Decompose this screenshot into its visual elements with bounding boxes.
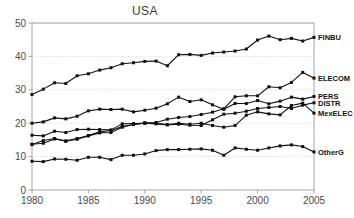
series-marker-mexelec bbox=[222, 107, 225, 110]
series-marker-distr bbox=[177, 123, 180, 126]
data-series bbox=[31, 35, 316, 164]
series-marker-otherg bbox=[42, 160, 45, 163]
series-marker-elecom bbox=[211, 124, 214, 127]
series-otherg bbox=[31, 143, 316, 163]
series-marker-finbu bbox=[313, 36, 316, 39]
series-marker-finbu bbox=[53, 81, 56, 84]
series-marker-mexelec bbox=[279, 86, 282, 89]
series-marker-distr bbox=[188, 124, 191, 127]
series-marker-mexelec bbox=[211, 111, 214, 114]
series-distr bbox=[31, 101, 316, 137]
series-marker-distr bbox=[245, 110, 248, 113]
series-marker-mexelec bbox=[64, 140, 67, 143]
series-marker-otherg bbox=[279, 144, 282, 147]
y-tick-label-0: 0 bbox=[20, 185, 26, 196]
series-marker-mexelec bbox=[155, 121, 158, 124]
series-marker-distr bbox=[301, 104, 304, 107]
series-marker-pers bbox=[267, 102, 270, 105]
series-marker-mexelec bbox=[31, 143, 34, 146]
series-marker-pers bbox=[109, 108, 112, 111]
series-marker-pers bbox=[87, 109, 90, 112]
series-marker-pers bbox=[76, 115, 79, 118]
series-marker-elecom bbox=[290, 104, 293, 107]
series-marker-otherg bbox=[155, 149, 158, 152]
series-marker-distr bbox=[31, 134, 34, 137]
series-marker-mexelec bbox=[143, 122, 146, 125]
series-marker-elecom bbox=[222, 126, 225, 129]
series-marker-distr bbox=[290, 107, 293, 110]
y-axis-ticks: 01020304050 bbox=[15, 18, 32, 196]
series-marker-finbu bbox=[98, 69, 101, 72]
series-marker-finbu bbox=[177, 53, 180, 56]
series-marker-finbu bbox=[188, 53, 191, 56]
series-marker-otherg bbox=[222, 154, 225, 157]
series-marker-otherg bbox=[132, 154, 135, 157]
series-line-finbu bbox=[32, 36, 314, 94]
series-marker-mexelec bbox=[290, 81, 293, 84]
series-marker-mexelec bbox=[98, 131, 101, 134]
series-marker-finbu bbox=[256, 39, 259, 42]
legend-label-mexelec: MexELEC bbox=[318, 109, 353, 118]
x-axis-ticks: 198019851990199520002005 bbox=[21, 190, 326, 206]
series-marker-distr bbox=[64, 131, 67, 134]
series-marker-pers bbox=[155, 107, 158, 110]
series-marker-mexelec bbox=[267, 85, 270, 88]
series-marker-distr bbox=[234, 112, 237, 115]
series-marker-finbu bbox=[234, 50, 237, 53]
series-marker-finbu bbox=[245, 48, 248, 51]
series-marker-mexelec bbox=[234, 95, 237, 98]
x-tick-label-1995: 1995 bbox=[190, 195, 213, 206]
series-marker-mexelec bbox=[53, 137, 56, 140]
legend-label-distr: DISTR bbox=[318, 99, 341, 108]
series-marker-elecom bbox=[234, 124, 237, 127]
series-marker-distr bbox=[76, 128, 79, 131]
series-marker-elecom bbox=[279, 113, 282, 116]
series-marker-elecom bbox=[256, 110, 259, 113]
series-marker-mexelec bbox=[301, 71, 304, 74]
x-tick-label-2000: 2000 bbox=[246, 195, 269, 206]
series-marker-otherg bbox=[64, 158, 67, 161]
legend-label-elecom: ELECOM bbox=[318, 74, 350, 83]
series-marker-pers bbox=[64, 117, 67, 120]
series-marker-distr bbox=[279, 105, 282, 108]
series-marker-otherg bbox=[301, 145, 304, 148]
series-marker-distr bbox=[313, 101, 316, 104]
series-marker-mexelec bbox=[87, 134, 90, 137]
series-marker-pers bbox=[211, 103, 214, 106]
series-marker-elecom bbox=[313, 112, 316, 115]
x-tick-label-1980: 1980 bbox=[21, 195, 44, 206]
axis-frame bbox=[32, 23, 314, 190]
series-marker-elecom bbox=[267, 112, 270, 115]
series-marker-finbu bbox=[42, 88, 45, 91]
series-marker-otherg bbox=[109, 158, 112, 161]
series-marker-finbu bbox=[166, 64, 169, 67]
series-mexelec bbox=[31, 71, 316, 146]
series-marker-finbu bbox=[64, 82, 67, 85]
series-marker-finbu bbox=[143, 60, 146, 63]
series-marker-pers bbox=[121, 108, 124, 111]
series-marker-finbu bbox=[121, 62, 124, 65]
series-marker-finbu bbox=[109, 66, 112, 69]
series-marker-otherg bbox=[245, 148, 248, 151]
series-marker-otherg bbox=[76, 159, 79, 162]
series-marker-finbu bbox=[211, 52, 214, 55]
plot-border bbox=[32, 23, 314, 190]
legend: FINBUELECOMPERSDISTRMexELECOtherG bbox=[318, 33, 353, 157]
grid-lines bbox=[32, 23, 314, 157]
series-marker-distr bbox=[121, 122, 124, 125]
series-marker-pers bbox=[98, 108, 101, 111]
series-marker-otherg bbox=[313, 150, 316, 153]
x-tick-label-1990: 1990 bbox=[134, 195, 157, 206]
series-marker-pers bbox=[301, 98, 304, 101]
legend-label-finbu: FINBU bbox=[318, 33, 341, 42]
series-marker-mexelec bbox=[76, 138, 79, 141]
series-marker-finbu bbox=[76, 74, 79, 77]
series-marker-mexelec bbox=[256, 94, 259, 97]
series-line-elecom bbox=[32, 103, 314, 144]
chart-container: USA 01020304050 198019851990199520002005… bbox=[0, 0, 354, 218]
series-marker-finbu bbox=[31, 93, 34, 96]
series-marker-distr bbox=[256, 107, 259, 110]
series-marker-mexelec bbox=[245, 94, 248, 97]
series-marker-pers bbox=[245, 102, 248, 105]
series-marker-mexelec bbox=[188, 115, 191, 118]
